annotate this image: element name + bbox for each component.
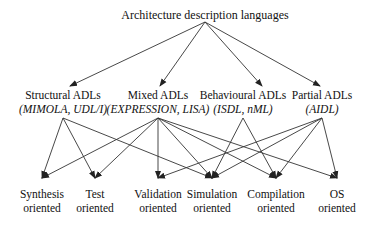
root-node-architecture-description-languages: Architecture description languages xyxy=(121,8,288,22)
target-node-compilation: Compilation oriented xyxy=(247,187,305,215)
root-label: Architecture description languages xyxy=(121,8,288,22)
category-label: Mixed ADLs xyxy=(107,88,210,102)
category-examples: (AIDL) xyxy=(292,102,352,116)
category-examples: (EXPRESSION, LISA) xyxy=(107,102,210,116)
target-label-line2: oriented xyxy=(187,201,237,215)
target-label-line1: Test xyxy=(76,187,114,201)
target-label-line2: oriented xyxy=(247,201,305,215)
target-label-line2: oriented xyxy=(20,201,64,215)
target-label-line1: OS xyxy=(318,187,356,201)
category-node-mixed: Mixed ADLs (EXPRESSION, LISA) xyxy=(107,88,210,116)
target-label-line1: Compilation xyxy=(247,187,305,201)
target-node-os: OS oriented xyxy=(318,187,356,215)
target-node-validation: Validation oriented xyxy=(134,187,181,215)
category-node-structural: Structural ADLs (MIMOLA, UDL/I) xyxy=(19,88,107,116)
edge-structural-to-test xyxy=(63,118,95,178)
category-node-partial: Partial ADLs (AIDL) xyxy=(292,88,352,116)
target-node-synthesis: Synthesis oriented xyxy=(20,187,64,215)
edge-partial-to-validation xyxy=(158,118,322,178)
category-label: Structural ADLs xyxy=(19,88,107,102)
edge-root-to-partial xyxy=(205,22,320,86)
edge-root-to-structural xyxy=(70,22,205,86)
edge-mixed-to-test xyxy=(95,118,158,178)
edge-partial-to-os xyxy=(322,118,337,178)
category-label: Behavioural ADLs xyxy=(200,88,287,102)
edge-partial-to-simulation xyxy=(212,118,322,178)
target-label-line2: oriented xyxy=(134,201,181,215)
category-label: Partial ADLs xyxy=(292,88,352,102)
category-node-behavioural: Behavioural ADLs (ISDL, nML) xyxy=(200,88,287,116)
target-node-test: Test oriented xyxy=(76,187,114,215)
target-label-line1: Simulation xyxy=(187,187,237,201)
target-label-line2: oriented xyxy=(76,201,114,215)
edge-root-to-behavioural xyxy=(205,22,262,86)
edge-structural-to-simulation xyxy=(63,118,212,178)
edge-root-to-mixed xyxy=(160,22,205,86)
target-label-line1: Synthesis xyxy=(20,187,64,201)
category-examples: (MIMOLA, UDL/I) xyxy=(19,102,107,116)
target-node-simulation: Simulation oriented xyxy=(187,187,237,215)
category-examples: (ISDL, nML) xyxy=(200,102,287,116)
edge-partial-to-compilation xyxy=(276,118,322,178)
target-label-line1: Validation xyxy=(134,187,181,201)
target-label-line2: oriented xyxy=(318,201,356,215)
